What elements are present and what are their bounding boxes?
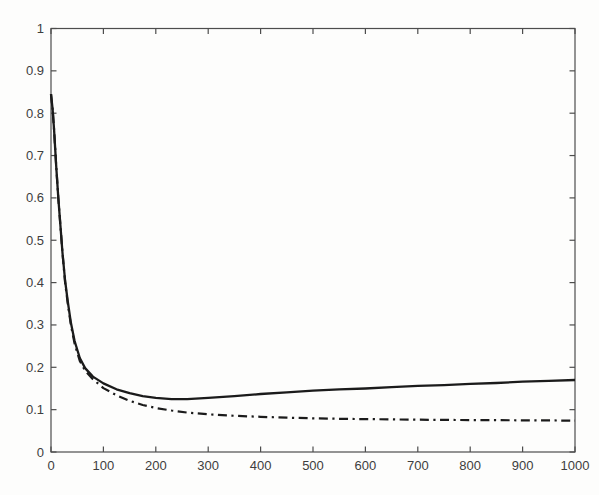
- series-solid-curve: [51, 94, 575, 399]
- y-tick-label: 0.3: [26, 317, 44, 332]
- y-tick-label: 0.6: [26, 190, 44, 205]
- x-tick-label: 200: [145, 458, 167, 473]
- y-tick-label: 0.7: [26, 148, 44, 163]
- y-tick-label: 1: [37, 21, 44, 36]
- y-tick-label: 0.2: [26, 360, 44, 375]
- x-tick-label: 500: [302, 458, 324, 473]
- x-tick-label: 700: [407, 458, 429, 473]
- y-tick-label: 0.1: [26, 402, 44, 417]
- plot-box: [51, 29, 575, 453]
- x-tick-label: 900: [512, 458, 534, 473]
- x-tick-label: 0: [47, 458, 54, 473]
- y-tick-label: 0: [37, 445, 44, 460]
- x-tick-label: 800: [459, 458, 481, 473]
- figure-canvas: 0100200300400500600700800900100000.10.20…: [0, 0, 599, 495]
- x-tick-label: 1000: [561, 458, 590, 473]
- chart-svg: 0100200300400500600700800900100000.10.20…: [0, 0, 599, 495]
- y-tick-label: 0.9: [26, 63, 44, 78]
- x-tick-label: 400: [250, 458, 272, 473]
- y-tick-label: 0.5: [26, 233, 44, 248]
- y-tick-label: 0.8: [26, 106, 44, 121]
- y-tick-label: 0.4: [26, 275, 44, 290]
- x-tick-label: 600: [355, 458, 377, 473]
- series-dashdot-curve: [51, 94, 575, 421]
- x-tick-label: 100: [93, 458, 115, 473]
- x-tick-label: 300: [197, 458, 219, 473]
